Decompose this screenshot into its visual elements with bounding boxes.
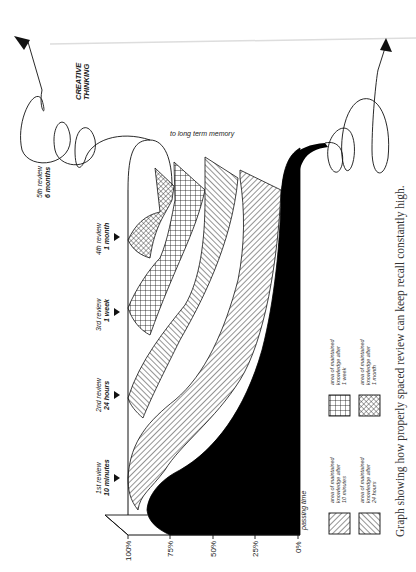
review-5-label: 5th review <box>36 165 43 198</box>
spiral-left <box>21 42 150 167</box>
legend-text-10-min-3: 10 minutes <box>341 476 347 503</box>
tick-marks <box>128 535 298 539</box>
review-3-interval: 1 week <box>103 298 110 322</box>
annotation-long-term-memory: to long term memory <box>170 130 235 138</box>
legend-text-1wk-3: 1 week <box>341 367 347 385</box>
tick-label-25: 25% <box>251 541 260 557</box>
review-1-interval: 10 minutes <box>103 459 110 496</box>
spaced-review-chart: 100% 75% 50% 25% 0% passing time 1st rev… <box>0 0 416 572</box>
legend-text-1mo-3: 1 month <box>371 365 377 385</box>
marker-1st-review-icon <box>114 474 120 482</box>
marker-2nd-review-icon <box>114 391 120 399</box>
page-edge <box>50 38 416 44</box>
tick-label-50: 50% <box>209 541 218 557</box>
axis-corner-flap <box>105 515 148 535</box>
legend-text-24h-3: 24 hours <box>371 481 377 504</box>
axis-label-time: passing time <box>300 491 308 531</box>
review-1-label: 1st review <box>95 462 102 494</box>
legend-swatch-10-minutes <box>329 513 350 534</box>
marker-4th-review-icon <box>114 233 120 241</box>
review-2-label: 2nd review <box>95 377 102 413</box>
long-term-sweep <box>281 143 328 200</box>
arrowhead-right-icon <box>380 38 392 52</box>
review-4-interval: 1 month <box>103 223 110 250</box>
review-5-interval: 6 months <box>44 167 51 198</box>
legend-swatch-1-month <box>359 395 380 416</box>
review-2-interval: 24 hours <box>103 381 110 411</box>
review-3-label: 3rd review <box>95 298 102 331</box>
spiral-right <box>325 48 389 173</box>
arrowhead-left-icon <box>14 36 30 50</box>
marker-3rd-review-icon <box>114 308 120 316</box>
tick-label-75: 75% <box>166 541 175 557</box>
figure-caption: Graph showing how properly spaced review… <box>394 185 407 537</box>
annotation-thinking: THINKING <box>82 64 91 100</box>
review-markers <box>114 233 120 482</box>
legend-swatch-24-hours <box>359 513 380 534</box>
legend-swatch-1-week <box>329 395 350 416</box>
review-4-label: 4th review <box>95 222 102 255</box>
tick-label-0: 0% <box>294 541 303 553</box>
tick-label-100: 100% <box>124 541 133 561</box>
legend: area of maintained knowledge after 10 mi… <box>329 339 380 534</box>
